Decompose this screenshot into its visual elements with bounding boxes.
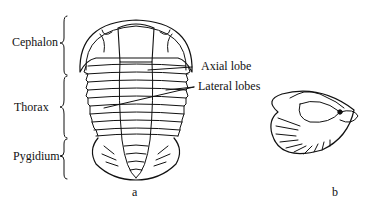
panel-a-label: a bbox=[132, 186, 137, 198]
trilobite-diagram bbox=[0, 0, 380, 206]
panel-b-label: b bbox=[332, 186, 338, 198]
cephalon-label: Cephalon bbox=[12, 36, 58, 48]
axial-lobe-leader bbox=[148, 67, 192, 70]
pygidium-label: Pygidium bbox=[13, 150, 60, 162]
pygidium-brace bbox=[60, 139, 67, 179]
thorax-label: Thorax bbox=[14, 101, 49, 113]
trilobite-a bbox=[80, 20, 192, 180]
lateral-lobes-label: Lateral lobes bbox=[198, 80, 260, 92]
thorax-brace bbox=[60, 76, 67, 138]
trilobite-b bbox=[271, 91, 358, 154]
cephalon-brace bbox=[60, 16, 67, 75]
axial-lobe-label: Axial lobe bbox=[201, 60, 251, 72]
